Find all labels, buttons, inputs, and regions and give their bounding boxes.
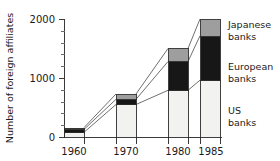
bar-segment-japanese-1985[interactable] <box>201 20 221 37</box>
y-axis-major-ticks <box>59 20 65 138</box>
bar-segment-european-1970[interactable] <box>117 100 137 105</box>
y-tick-label-2000: 2000 <box>30 14 55 25</box>
bar-segment-us-1970[interactable] <box>117 105 137 138</box>
bar-group-1970[interactable] <box>117 95 137 138</box>
y-tick-label-1000: 1000 <box>30 73 55 84</box>
bar-segment-japanese-1960[interactable] <box>65 128 85 130</box>
connector-top-b <box>136 49 168 95</box>
bar-group-1985[interactable] <box>201 20 221 138</box>
connector-mid-b <box>136 62 168 100</box>
x-axis-tick-labels: 1960 1970 1980 1985 <box>61 146 223 157</box>
x-tick-label-1970: 1970 <box>113 146 138 157</box>
y-axis-title: Number of foreign affiliates <box>4 13 15 143</box>
bar-segment-japanese-1980[interactable] <box>169 49 189 62</box>
legend: Japanese banks European banks US banks <box>227 19 273 128</box>
legend-label-european-line2: banks <box>228 73 256 84</box>
connector-mid-c <box>188 36 200 62</box>
x-tick-label-1980: 1980 <box>165 146 190 157</box>
chart-canvas: Number of foreign affiliates 2000 1000 0 <box>0 0 280 161</box>
bar-segment-japanese-1970[interactable] <box>117 95 137 100</box>
legend-label-japanese-line2: banks <box>228 31 256 42</box>
bar-segment-us-1985[interactable] <box>201 80 221 137</box>
connector-low-b <box>136 90 168 104</box>
y-tick-label-0: 0 <box>49 132 55 143</box>
x-tick-label-1985: 1985 <box>198 146 223 157</box>
x-tick-label-1960: 1960 <box>61 146 86 157</box>
connector-mid-a <box>84 99 116 129</box>
legend-label-us-line2: banks <box>228 117 256 128</box>
legend-label-japanese-line1: Japanese <box>227 19 271 30</box>
bar-segment-european-1985[interactable] <box>201 37 221 81</box>
connector-top-c <box>188 19 200 49</box>
legend-item-european[interactable]: European banks <box>228 61 273 84</box>
legend-label-european-line1: European <box>228 61 273 72</box>
legend-item-japanese[interactable]: Japanese banks <box>227 19 271 42</box>
x-axis-ticks <box>84 138 220 144</box>
bar-group-1980[interactable] <box>169 49 189 138</box>
legend-label-us-line1: US <box>228 105 241 116</box>
connector-top-a <box>84 94 116 128</box>
bank-affiliates-stacked-bar-chart: Number of foreign affiliates 2000 1000 0 <box>0 0 280 161</box>
bar-group-1960[interactable] <box>65 128 85 138</box>
legend-item-us[interactable]: US banks <box>228 105 256 128</box>
bar-segment-european-1960[interactable] <box>65 130 85 133</box>
y-axis-tick-labels: 2000 1000 0 <box>30 14 55 143</box>
connector-low-a <box>84 105 116 133</box>
bar-segment-us-1960[interactable] <box>65 133 85 138</box>
bar-segment-european-1980[interactable] <box>169 62 189 90</box>
bar-segment-us-1980[interactable] <box>169 90 189 137</box>
connector-low-c <box>188 80 200 90</box>
